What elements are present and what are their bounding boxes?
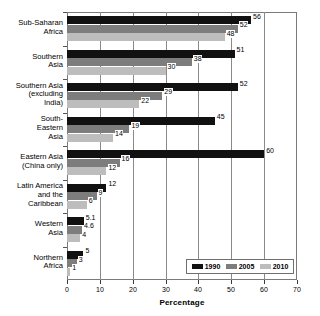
tick-mark (231, 280, 232, 284)
legend-label-2010: 2010 (273, 263, 289, 271)
bar-2010 (67, 100, 139, 108)
category-tick (63, 113, 67, 114)
category-label: Southern Asia(excludingIndia) (0, 82, 63, 108)
bar-1990 (67, 117, 215, 125)
bar-value-label: 1 (72, 264, 77, 272)
bar-value-label: 12 (108, 180, 117, 188)
bar-value-label: 14 (115, 130, 124, 138)
bar-1990 (67, 83, 238, 91)
bar-2010 (67, 268, 70, 276)
category-label: WesternAsia (0, 220, 63, 237)
bar-value-label: 4.6 (84, 222, 95, 230)
category-tick (63, 180, 67, 181)
tick-label: 10 (90, 285, 110, 294)
category-label: South-EasternAsia (0, 115, 63, 141)
category-label: SouthernAsia (0, 53, 63, 70)
bar-2010 (67, 167, 106, 175)
legend-swatch-icon-2010 (260, 264, 271, 269)
bar-value-label: 12 (108, 164, 117, 172)
category-label: Eastern Asia(China only) (0, 153, 63, 170)
tick-mark (166, 280, 167, 284)
category-label-line: Africa (0, 28, 63, 37)
category-label: Latin Americaand theCaribbean (0, 182, 63, 208)
category-tick (63, 12, 67, 13)
legend-item-2010: 2010 (260, 263, 289, 271)
category-tick (63, 247, 67, 248)
category-tick (63, 146, 67, 147)
bar-value-label: 29 (164, 88, 173, 96)
tick-mark (100, 280, 101, 284)
bar-2010 (67, 33, 225, 41)
category-label: Sub-SaharanAfrica (0, 19, 63, 36)
bar-value-label: 38 (193, 55, 202, 63)
legend-swatch-icon-2005 (226, 264, 237, 269)
tick-label: 60 (254, 285, 274, 294)
bar-1990 (67, 16, 251, 24)
category-label-line: Asia (0, 61, 63, 70)
tick-mark (133, 280, 134, 284)
bar-value-label: 51 (236, 46, 245, 54)
bar-value-label: 45 (216, 113, 225, 121)
tick-label: 0 (57, 285, 77, 294)
bar-2010 (67, 234, 80, 242)
category-label-line: Caribbean (0, 200, 63, 209)
bar-value-label: 48 (226, 30, 235, 38)
bar-value-label: 52 (239, 80, 248, 88)
bar-value-label: 60 (266, 147, 275, 155)
bar-2005 (67, 25, 238, 33)
category-label-line: Asia (0, 133, 63, 142)
bar-value-label: 9 (98, 189, 103, 197)
bar-2010 (67, 134, 113, 142)
tick-mark (67, 280, 68, 284)
bar-value-label: 4 (82, 231, 87, 239)
chart-legend: 1990 2005 2010 (186, 259, 294, 274)
category-tick (63, 46, 67, 47)
legend-swatch-icon-1990 (192, 264, 203, 269)
x-axis-title: Percentage (67, 298, 297, 307)
bar-2005 (67, 226, 82, 234)
bar-value-label: 30 (167, 63, 176, 71)
category-label-line: Africa (0, 262, 63, 271)
bar-value-label: 52 (239, 21, 248, 29)
tick-label: 50 (221, 285, 241, 294)
bar-chart: 010203040506070 Sub-SaharanAfrica565248S… (0, 0, 320, 316)
category-tick (63, 213, 67, 214)
tick-label: 70 (287, 285, 307, 294)
bar-value-label: 3 (78, 256, 83, 264)
category-tick (63, 79, 67, 80)
bar-1990 (67, 150, 264, 158)
tick-mark (264, 280, 265, 284)
bar-2010 (67, 201, 87, 209)
bar-2010 (67, 67, 166, 75)
category-label-line: Asia (0, 229, 63, 238)
category-label: NorthernAfrica (0, 254, 63, 271)
bar-value-label: 16 (121, 155, 130, 163)
bar-value-label: 19 (131, 122, 140, 130)
bar-value-label: 22 (141, 97, 150, 105)
tick-mark (297, 280, 298, 284)
tick-label: 30 (156, 285, 176, 294)
legend-item-2005: 2005 (226, 263, 255, 271)
tick-label: 40 (188, 285, 208, 294)
legend-item-1990: 1990 (192, 263, 221, 271)
tick-mark (198, 280, 199, 284)
bar-1990 (67, 217, 84, 225)
bar-value-label: 5.1 (85, 214, 96, 222)
bar-1990 (67, 50, 235, 58)
legend-label-1990: 1990 (205, 263, 221, 271)
legend-label-2005: 2005 (239, 263, 255, 271)
bar-value-label: 6 (88, 197, 93, 205)
bar-value-label: 5 (85, 247, 90, 255)
category-label-line: India) (0, 99, 63, 108)
bar-value-label: 56 (253, 13, 262, 21)
tick-label: 20 (123, 285, 143, 294)
category-label-line: (China only) (0, 162, 63, 171)
